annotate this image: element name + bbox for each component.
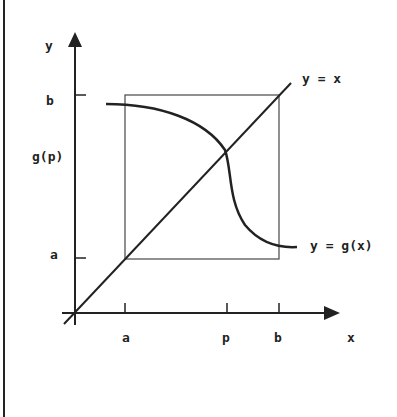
g-curve — [106, 104, 297, 247]
x-tick-label-a: a — [122, 330, 130, 345]
y-axis-label: y — [45, 38, 53, 53]
x-tick-label-p: p — [222, 330, 230, 345]
identity-line-label: y = x — [302, 71, 341, 86]
fixed-point-diagram: y x b g(p) a a p b y = x y = g(x) — [0, 0, 397, 417]
g-curve-label: y = g(x) — [310, 238, 373, 253]
x-tick-label-b: b — [274, 330, 282, 345]
y-tick-label-a: a — [50, 247, 58, 262]
y-axis-arrow-icon — [68, 32, 82, 47]
y-tick-label-b: b — [46, 93, 54, 108]
y-tick-label-gp: g(p) — [32, 149, 63, 164]
x-axis-arrow-icon — [324, 306, 340, 320]
x-axis-label: x — [347, 330, 355, 345]
identity-line — [64, 83, 291, 324]
